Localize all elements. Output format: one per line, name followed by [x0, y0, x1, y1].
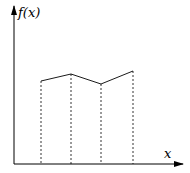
- trapezoid-diagram: f(x) x: [0, 0, 190, 173]
- x-axis-label: x: [164, 146, 172, 161]
- dashed-verticals: [41, 71, 133, 164]
- y-axis-label: f(x): [17, 5, 40, 20]
- function-polyline: [41, 71, 133, 84]
